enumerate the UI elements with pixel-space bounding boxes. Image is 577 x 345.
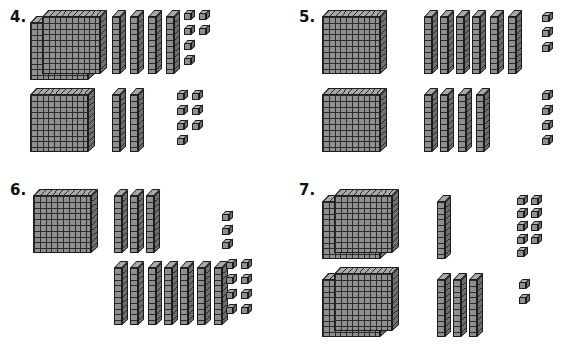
rod-face — [166, 16, 174, 74]
ten-rod — [114, 189, 127, 253]
ten-rod — [197, 261, 210, 325]
ten-rod — [458, 88, 471, 152]
ten-rod — [130, 261, 143, 325]
rod-face — [112, 16, 120, 74]
unit-cube — [177, 105, 188, 116]
ten-rod — [490, 10, 503, 74]
unit-face — [517, 250, 524, 257]
ten-rod — [146, 189, 159, 253]
rod-face — [112, 94, 120, 152]
unit-face — [177, 93, 184, 100]
ten-rod — [508, 10, 521, 74]
unit-cube — [241, 289, 252, 300]
unit-side-bevel — [229, 224, 233, 235]
unit-side-bevel — [549, 89, 553, 100]
unit-cube — [531, 195, 542, 206]
rod-face — [490, 16, 498, 74]
rod-side-bevel — [516, 11, 522, 74]
rod-face — [114, 195, 122, 253]
flat-side-bevel — [392, 189, 399, 253]
ten-rod — [112, 88, 125, 152]
unit-side-bevel — [248, 288, 252, 299]
ten-rod — [476, 88, 489, 152]
unit-cube — [542, 42, 553, 53]
unit-side-bevel — [248, 258, 252, 269]
rod-side-bevel — [448, 89, 454, 152]
unit-face — [542, 108, 549, 115]
unit-cube — [184, 25, 195, 36]
flat-side-bevel — [91, 189, 98, 253]
problem-number-7: 7. — [299, 181, 315, 199]
unit-side-bevel — [538, 207, 542, 218]
unit-face — [226, 262, 233, 269]
rod-face — [164, 267, 172, 325]
flat-face — [42, 16, 100, 74]
unit-face — [517, 237, 524, 244]
flat-top-bevel — [334, 189, 398, 196]
unit-face — [519, 282, 526, 289]
ten-rod — [130, 10, 143, 74]
rod-face — [456, 16, 464, 74]
unit-face — [222, 228, 229, 235]
unit-cube — [517, 195, 528, 206]
unit-side-bevel — [549, 11, 553, 22]
flat-top-bevel — [322, 88, 386, 95]
flat-face — [322, 16, 380, 74]
flat-side-bevel — [380, 10, 387, 74]
rod-face — [472, 16, 480, 74]
rod-face — [214, 267, 222, 325]
unit-cube — [517, 234, 528, 245]
unit-cube — [184, 40, 195, 51]
unit-side-bevel — [233, 303, 237, 314]
rod-face — [437, 279, 445, 337]
unit-side-bevel — [191, 39, 195, 50]
unit-face — [519, 297, 526, 304]
unit-face — [517, 224, 524, 231]
ten-rod — [469, 273, 482, 337]
ten-rod — [440, 10, 453, 74]
unit-face — [542, 123, 549, 130]
unit-cube — [519, 279, 530, 290]
ten-rod — [440, 88, 453, 152]
flat-face — [30, 94, 88, 152]
rod-face — [146, 195, 154, 253]
unit-side-bevel — [184, 119, 188, 130]
rod-face — [114, 267, 122, 325]
unit-cube — [192, 120, 203, 131]
problem-5: 5. — [289, 0, 577, 172]
unit-side-bevel — [549, 26, 553, 37]
unit-face — [199, 13, 206, 20]
unit-side-bevel — [191, 54, 195, 65]
unit-side-bevel — [524, 220, 528, 231]
unit-cube — [184, 55, 195, 66]
hundred-flat — [334, 267, 398, 331]
unit-face — [241, 307, 248, 314]
ten-rod — [456, 10, 469, 74]
ten-rod — [453, 273, 466, 337]
unit-face — [199, 28, 206, 35]
unit-face — [184, 58, 191, 65]
problem-4: 4. — [0, 0, 288, 172]
unit-cube — [222, 225, 233, 236]
unit-cube — [531, 234, 542, 245]
rod-side-bevel — [477, 274, 483, 337]
ten-rod — [114, 261, 127, 325]
rod-face — [440, 94, 448, 152]
flat-side-bevel — [100, 10, 107, 74]
rod-side-bevel — [480, 11, 486, 74]
unit-side-bevel — [538, 233, 542, 244]
unit-cube — [184, 10, 195, 21]
flat-face — [334, 195, 392, 253]
unit-cube — [542, 105, 553, 116]
rod-face — [424, 94, 432, 152]
unit-cube — [222, 239, 233, 250]
unit-face — [226, 292, 233, 299]
unit-side-bevel — [549, 104, 553, 115]
unit-face — [542, 93, 549, 100]
unit-face — [192, 123, 199, 130]
rod-side-bevel — [174, 11, 180, 74]
rod-face — [148, 267, 156, 325]
ten-rod — [180, 261, 193, 325]
unit-side-bevel — [524, 233, 528, 244]
unit-cube — [192, 90, 203, 101]
